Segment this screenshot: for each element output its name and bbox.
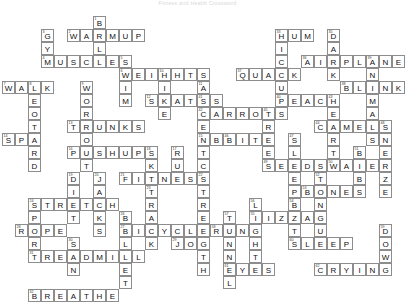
- crossword-cell[interactable]: R: [327, 133, 340, 146]
- crossword-cell[interactable]: K: [392, 81, 405, 94]
- crossword-cell[interactable]: 41S: [197, 94, 210, 107]
- crossword-cell[interactable]: T: [249, 133, 262, 146]
- crossword-cell[interactable]: R: [54, 198, 67, 211]
- crossword-cell[interactable]: E: [327, 237, 340, 250]
- crossword-cell[interactable]: M: [106, 29, 119, 42]
- crossword-cell[interactable]: P: [15, 133, 28, 146]
- crossword-cell[interactable]: C: [197, 159, 210, 172]
- crossword-cell[interactable]: 55I: [249, 211, 262, 224]
- crossword-cell[interactable]: S: [93, 146, 106, 159]
- crossword-cell[interactable]: P: [340, 55, 353, 68]
- crossword-cell[interactable]: U: [249, 68, 262, 81]
- crossword-cell[interactable]: 57T: [223, 211, 236, 224]
- crossword-cell[interactable]: M: [119, 94, 132, 107]
- crossword-cell[interactable]: K: [327, 68, 340, 81]
- crossword-cell[interactable]: R: [80, 107, 93, 120]
- crossword-cell[interactable]: P: [28, 211, 41, 224]
- crossword-cell[interactable]: O: [28, 224, 41, 237]
- crossword-cell[interactable]: D: [28, 159, 41, 172]
- crossword-cell[interactable]: 15N: [197, 133, 210, 146]
- crossword-cell[interactable]: Y: [340, 263, 353, 276]
- crossword-cell[interactable]: A: [67, 289, 80, 302]
- crossword-cell[interactable]: 12S: [145, 94, 158, 107]
- crossword-cell[interactable]: Y: [158, 224, 171, 237]
- crossword-cell[interactable]: D: [301, 159, 314, 172]
- crossword-cell[interactable]: 5S: [119, 55, 132, 68]
- crossword-cell[interactable]: E: [366, 159, 379, 172]
- crossword-cell[interactable]: C: [145, 224, 158, 237]
- crossword-cell[interactable]: T: [145, 172, 158, 185]
- crossword-cell[interactable]: C: [314, 94, 327, 107]
- crossword-cell[interactable]: 17R: [171, 146, 184, 159]
- crossword-cell[interactable]: 24S: [28, 198, 41, 211]
- crossword-cell[interactable]: I: [236, 133, 249, 146]
- crossword-cell[interactable]: A: [28, 133, 41, 146]
- crossword-cell[interactable]: H: [249, 237, 262, 250]
- crossword-cell[interactable]: E: [106, 289, 119, 302]
- crossword-cell[interactable]: 42C: [197, 107, 210, 120]
- crossword-cell[interactable]: 59D: [379, 224, 392, 237]
- crossword-cell[interactable]: E: [28, 94, 41, 107]
- crossword-cell[interactable]: M: [340, 120, 353, 133]
- crossword-cell[interactable]: 43H: [327, 94, 340, 107]
- crossword-cell[interactable]: S: [275, 107, 288, 120]
- crossword-cell[interactable]: E: [288, 172, 301, 185]
- crossword-cell[interactable]: 20J: [93, 172, 106, 185]
- crossword-cell[interactable]: Y: [41, 42, 54, 55]
- crossword-cell[interactable]: 32B: [28, 289, 41, 302]
- crossword-cell[interactable]: S: [67, 55, 80, 68]
- crossword-cell[interactable]: 50W: [327, 159, 340, 172]
- crossword-cell[interactable]: H: [93, 289, 106, 302]
- crossword-cell[interactable]: T: [184, 94, 197, 107]
- crossword-cell[interactable]: 53B: [301, 185, 314, 198]
- crossword-cell[interactable]: I: [314, 55, 327, 68]
- crossword-cell[interactable]: E: [119, 263, 132, 276]
- crossword-cell[interactable]: E: [158, 107, 171, 120]
- crossword-cell[interactable]: E: [353, 120, 366, 133]
- crossword-cell[interactable]: N: [366, 263, 379, 276]
- crossword-cell[interactable]: S: [262, 263, 275, 276]
- crossword-cell[interactable]: L: [353, 81, 366, 94]
- crossword-cell[interactable]: L: [119, 250, 132, 263]
- crossword-cell[interactable]: I: [353, 159, 366, 172]
- crossword-cell[interactable]: M: [301, 29, 314, 42]
- crossword-cell[interactable]: T: [249, 250, 262, 263]
- crossword-cell[interactable]: S: [93, 224, 106, 237]
- crossword-cell[interactable]: L: [353, 55, 366, 68]
- crossword-cell[interactable]: A: [93, 185, 106, 198]
- crossword-cell[interactable]: I: [275, 42, 288, 55]
- crossword-cell[interactable]: P: [340, 237, 353, 250]
- crossword-cell[interactable]: S: [184, 172, 197, 185]
- crossword-cell[interactable]: P: [132, 29, 145, 42]
- crossword-cell[interactable]: 3G: [41, 29, 54, 42]
- crossword-cell[interactable]: U: [119, 146, 132, 159]
- crossword-cell[interactable]: L: [184, 224, 197, 237]
- crossword-cell[interactable]: A: [327, 120, 340, 133]
- crossword-cell[interactable]: A: [80, 29, 93, 42]
- crossword-cell[interactable]: 58R: [210, 224, 223, 237]
- crossword-cell[interactable]: H: [106, 146, 119, 159]
- crossword-cell[interactable]: I: [119, 81, 132, 94]
- crossword-cell[interactable]: R: [327, 55, 340, 68]
- crossword-cell[interactable]: E: [67, 198, 80, 211]
- crossword-cell[interactable]: I: [353, 263, 366, 276]
- crossword-cell[interactable]: E: [54, 224, 67, 237]
- crossword-cell[interactable]: A: [67, 250, 80, 263]
- crossword-cell[interactable]: R: [145, 198, 158, 211]
- crossword-cell[interactable]: G: [379, 263, 392, 276]
- crossword-cell[interactable]: R: [28, 237, 41, 250]
- crossword-cell[interactable]: R: [80, 120, 93, 133]
- crossword-cell[interactable]: G: [249, 224, 262, 237]
- crossword-cell[interactable]: 1B: [93, 16, 106, 29]
- crossword-cell[interactable]: O: [28, 107, 41, 120]
- crossword-cell[interactable]: 22S: [197, 172, 210, 185]
- crossword-cell[interactable]: Z: [379, 172, 392, 185]
- crossword-cell[interactable]: 14S: [2, 133, 15, 146]
- crossword-cell[interactable]: L: [93, 42, 106, 55]
- crossword-cell[interactable]: R: [197, 198, 210, 211]
- crossword-cell[interactable]: E: [197, 120, 210, 133]
- crossword-cell[interactable]: I: [262, 211, 275, 224]
- crossword-cell[interactable]: O: [80, 94, 93, 107]
- crossword-cell[interactable]: L: [132, 250, 145, 263]
- crossword-cell[interactable]: A: [366, 107, 379, 120]
